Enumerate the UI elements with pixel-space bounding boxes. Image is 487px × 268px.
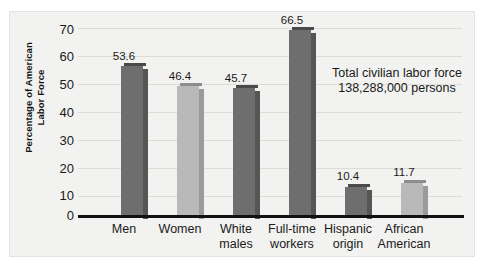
y-tick-label: 60 (44, 50, 74, 63)
bar-men[interactable] (121, 66, 143, 216)
x-tick-line: White (220, 222, 252, 236)
x-tick-line: Men (112, 222, 136, 236)
bar-front-face (177, 86, 199, 216)
bar-front-face (233, 88, 255, 216)
bar-side-face (311, 33, 316, 219)
y-axis-title-line-1: Percentage of American (23, 42, 34, 153)
total-labor-force-annotation: Total civilian labor force 138,288,000 p… (322, 66, 472, 96)
x-tick-label-full-time-workers: Full-time workers (260, 222, 324, 252)
gridline (78, 28, 462, 29)
bar-front-face (289, 30, 311, 216)
x-tick-line: Full-time (268, 222, 316, 236)
bar-chart-figure: Percentage of American Labor Force 70 60… (0, 0, 487, 268)
bar-value-label: 53.6 (96, 50, 152, 62)
x-axis-baseline (78, 215, 464, 218)
bar-front-face (121, 66, 143, 216)
y-tick-label: 50 (44, 78, 74, 91)
x-tick-line: African (385, 222, 424, 236)
bar-side-face (255, 91, 260, 219)
bar-hispanic-origin[interactable] (345, 187, 367, 216)
x-tick-line: Women (159, 222, 202, 236)
y-tick-label: 40 (44, 106, 74, 119)
bar-value-label: 46.4 (152, 70, 208, 82)
x-tick-line: American (378, 237, 431, 251)
bar-women[interactable] (177, 86, 199, 216)
y-tick-label: 0 (44, 209, 74, 222)
bar-side-face (143, 69, 148, 219)
bar-value-label: 10.4 (320, 170, 376, 182)
bar-african-american[interactable] (401, 183, 423, 216)
x-tick-line: origin (333, 237, 364, 251)
x-tick-line: males (219, 237, 252, 251)
x-tick-label-white-males: White males (204, 222, 268, 252)
bar-full-time-workers[interactable] (289, 30, 311, 216)
x-tick-line: Hispanic (324, 222, 372, 236)
y-tick-label: 10 (44, 189, 74, 202)
annotation-line-1: Total civilian labor force (332, 66, 462, 80)
x-tick-label-hispanic-origin: Hispanic origin (316, 222, 380, 252)
bar-value-label: 66.5 (264, 14, 320, 26)
annotation-line-2: 138,288,000 persons (338, 81, 455, 95)
bar-front-face (401, 183, 423, 216)
bar-value-label: 11.7 (376, 166, 432, 178)
y-axis-title: Percentage of American Labor Force (23, 23, 46, 173)
bar-white-males[interactable] (233, 88, 255, 216)
y-tick-label: 20 (44, 162, 74, 175)
x-tick-label-women: Women (148, 222, 212, 237)
bar-value-label: 45.7 (208, 72, 264, 84)
y-tick-label: 70 (44, 23, 74, 36)
x-tick-line: workers (270, 237, 314, 251)
bar-front-face (345, 187, 367, 216)
y-tick-label: 30 (44, 134, 74, 147)
x-tick-label-men: Men (92, 222, 156, 237)
bar-side-face (199, 89, 204, 219)
x-tick-label-african-american: African American (372, 222, 436, 252)
